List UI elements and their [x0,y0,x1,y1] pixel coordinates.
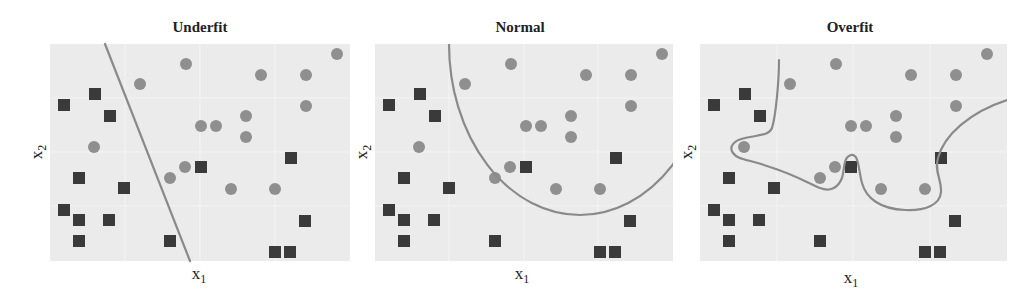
square-point [383,204,395,216]
circle-point [240,110,252,122]
x-axis-label: x1 [844,268,859,290]
circle-point [950,69,962,81]
circle-point [195,120,207,132]
panel-normal: Normal x1 x2 [352,0,711,286]
square-point [58,204,70,216]
square-point [428,214,440,226]
x-axis-label: x1 [192,264,207,286]
circle-point [830,58,842,70]
circle-point [845,120,857,132]
square-point [520,161,532,173]
circle-point [240,131,252,143]
square-point [398,235,410,247]
square-point [299,215,311,227]
square-point [845,161,857,173]
x-axis-label: x1 [515,264,530,286]
square-point [624,215,636,227]
y-axis-label: x2 [352,145,374,160]
square-point [934,246,946,258]
square-point [739,88,751,100]
square-point [398,172,410,184]
circle-point [875,183,887,195]
square-point [269,246,281,258]
square-point [429,110,441,122]
circle-point [300,69,312,81]
circle-point [784,78,796,90]
square-point [919,246,931,258]
square-point [414,88,426,100]
circle-point [738,141,750,153]
square-point [118,182,130,194]
square-point [73,214,85,226]
circle-point [860,120,872,132]
circle-point [565,110,577,122]
square-point [723,214,735,226]
square-point [723,235,735,247]
square-point [89,88,101,100]
circle-point [88,141,100,153]
circle-point [225,183,237,195]
square-point [708,99,720,111]
circle-point [255,69,267,81]
circle-point [981,48,993,60]
square-point [285,152,297,164]
square-point [754,110,766,122]
circle-point [656,48,668,60]
circle-point [413,141,425,153]
square-point [398,214,410,226]
circle-point [520,120,532,132]
square-point [708,204,720,216]
panel-underfit: Underfit x1 x2 [27,19,350,286]
square-point [284,246,296,258]
circle-point [331,48,343,60]
square-point [814,235,826,247]
square-point [443,182,455,194]
circle-point [950,100,962,112]
circle-point [179,161,191,173]
square-point [164,235,176,247]
circle-point [565,131,577,143]
square-point [753,214,765,226]
y-axis-label: x2 [27,145,49,160]
square-point [383,99,395,111]
circle-point [164,172,176,184]
square-point [58,99,70,111]
fit-comparison-figure: Underfit x1 x2 Normal [0,0,1028,299]
square-point [949,215,961,227]
circle-point [580,69,592,81]
square-point [103,214,115,226]
square-point [73,172,85,184]
circle-point [535,120,547,132]
circle-point [269,183,281,195]
square-point [594,246,606,258]
circle-point [134,78,146,90]
circle-point [919,183,931,195]
circle-point [180,58,192,70]
square-point [104,110,116,122]
circle-point [594,183,606,195]
circle-point [459,78,471,90]
square-point [73,235,85,247]
circle-point [890,131,902,143]
square-point [768,182,780,194]
y-axis-label: x2 [677,145,699,160]
square-point [610,152,622,164]
circle-point [814,172,826,184]
circle-point [905,69,917,81]
circle-point [625,69,637,81]
square-point [195,161,207,173]
square-point [489,235,501,247]
circle-point [890,110,902,122]
circle-point [505,58,517,70]
panel-title: Normal [495,19,544,35]
panel-title: Underfit [173,19,228,35]
circle-point [300,100,312,112]
circle-point [210,120,222,132]
circle-point [829,161,841,173]
square-point [723,172,735,184]
panel-overfit: Overfit x1 x2 [677,19,1007,290]
circle-point [550,183,562,195]
panel-title: Overfit [827,19,874,35]
square-point [609,246,621,258]
circle-point [625,100,637,112]
